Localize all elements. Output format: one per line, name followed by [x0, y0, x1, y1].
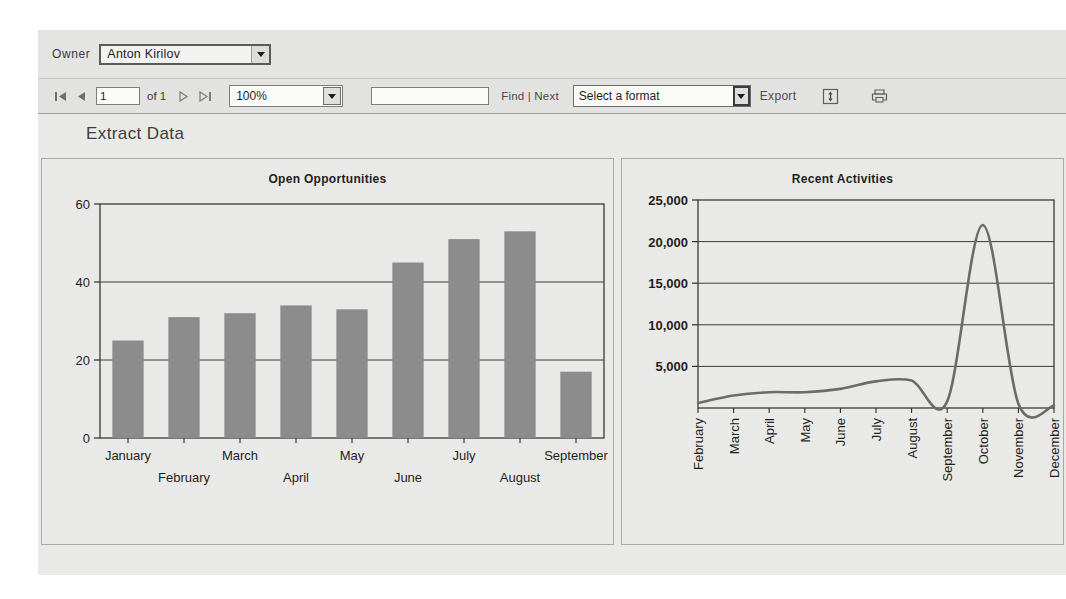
chevron-down-icon[interactable]	[251, 46, 269, 63]
x-tick-label: February	[691, 418, 706, 471]
bar-chart-open-opportunities: 0204060JanuaryFebruaryMarchAprilMayJuneJ…	[42, 186, 613, 516]
bar	[224, 313, 255, 438]
x-tick-label: August	[905, 418, 920, 459]
report-toolbar: 1 of 1 100% Find | Next Select a format	[38, 78, 1066, 114]
first-page-icon[interactable]	[50, 85, 71, 107]
report-viewer: Owner Anton Kirilov 1 of 1	[38, 30, 1066, 575]
y-tick-label: 15,000	[648, 276, 688, 291]
y-tick-label: 20	[76, 353, 90, 368]
x-tick-label: February	[158, 470, 211, 485]
bar	[560, 372, 591, 438]
line-series	[698, 225, 1054, 418]
x-tick-label: October	[976, 417, 991, 464]
zoom-dropdown[interactable]: 100%	[229, 85, 343, 107]
y-tick-label: 20,000	[648, 235, 688, 250]
bar	[280, 305, 311, 438]
export-link[interactable]: Export	[760, 89, 796, 103]
report-body: Extract Data Open Opportunities 0204060J…	[38, 114, 1066, 574]
page-number-input[interactable]: 1	[96, 87, 140, 105]
bar	[392, 263, 423, 439]
find-input[interactable]	[371, 87, 489, 105]
x-tick-label: March	[222, 448, 258, 463]
last-page-icon[interactable]	[194, 85, 215, 107]
x-tick-label: July	[452, 448, 476, 463]
x-tick-label: December	[1047, 417, 1062, 478]
x-tick-label: August	[500, 470, 541, 485]
next-page-icon[interactable]	[173, 85, 194, 107]
owner-dropdown[interactable]: Anton Kirilov	[99, 44, 271, 65]
x-tick-label: November	[1011, 417, 1026, 478]
chart-title-open-opportunities: Open Opportunities	[42, 172, 613, 186]
bar	[168, 317, 199, 438]
find-separator: |	[528, 90, 531, 102]
page-title: Extract Data	[86, 124, 184, 144]
previous-page-icon[interactable]	[71, 85, 92, 107]
find-next-links[interactable]: Find | Next	[501, 90, 559, 102]
y-tick-label: 60	[76, 197, 90, 212]
export-format-dropdown[interactable]: Select a format	[573, 85, 751, 107]
owner-label: Owner	[52, 47, 90, 61]
chart-panel-recent-activities: Recent Activities 5,00010,00015,00020,00…	[621, 158, 1064, 545]
x-tick-label: September	[544, 448, 608, 463]
x-tick-label: July	[869, 418, 884, 442]
zoom-dropdown-value: 100%	[230, 86, 322, 106]
x-tick-label: May	[798, 418, 813, 443]
y-tick-label: 40	[76, 275, 90, 290]
x-tick-label: March	[727, 418, 742, 454]
x-tick-label: June	[833, 418, 848, 446]
chart-title-recent-activities: Recent Activities	[622, 172, 1063, 186]
x-tick-label: April	[283, 470, 309, 485]
page-count-label: of 1	[147, 90, 166, 102]
x-tick-label: May	[340, 448, 365, 463]
chevron-down-icon[interactable]	[733, 86, 750, 106]
x-tick-label: June	[394, 470, 422, 485]
y-tick-label: 0	[83, 431, 90, 446]
next-link[interactable]: Next	[534, 90, 558, 102]
bar	[112, 341, 143, 439]
parameter-bar: Owner Anton Kirilov	[38, 30, 1066, 78]
owner-dropdown-value: Anton Kirilov	[101, 46, 251, 63]
bar	[504, 231, 535, 438]
x-tick-label: April	[762, 418, 777, 444]
line-chart-recent-activities: 5,00010,00015,00020,00025,000FebruaryMar…	[622, 186, 1063, 516]
print-icon[interactable]	[870, 86, 890, 106]
refresh-icon[interactable]	[820, 86, 840, 106]
y-tick-label: 10,000	[648, 318, 688, 333]
bar	[448, 239, 479, 438]
find-link[interactable]: Find	[501, 90, 524, 102]
x-tick-label: January	[105, 448, 152, 463]
chevron-down-icon[interactable]	[323, 87, 341, 105]
y-tick-label: 5,000	[655, 359, 688, 374]
y-tick-label: 25,000	[648, 193, 688, 208]
export-format-value: Select a format	[574, 86, 733, 106]
bar	[336, 309, 367, 438]
chart-panel-open-opportunities: Open Opportunities 0204060JanuaryFebruar…	[41, 158, 614, 545]
x-tick-label: September	[940, 417, 955, 481]
